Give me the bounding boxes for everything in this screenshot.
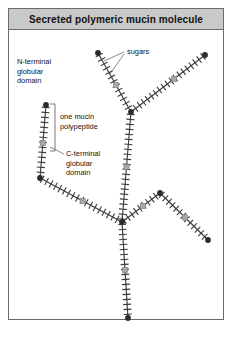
sugar-side-chain <box>45 178 49 185</box>
label-n-terminal-globular-domain-line: domain <box>17 76 41 85</box>
label-sugars-line: sugars <box>127 47 149 56</box>
sugar-side-chain <box>105 71 112 75</box>
c-terminal-globular-domain <box>122 267 127 272</box>
sugar-side-chain <box>93 204 97 211</box>
polypeptide-bracket <box>50 104 55 151</box>
sugar-side-chain <box>161 84 166 90</box>
sugar-side-chain <box>185 66 190 72</box>
sugar-side-chain <box>125 139 133 140</box>
c-terminal-globular-domain <box>113 82 118 87</box>
c-terminal-globular-domain <box>124 164 129 169</box>
sugar-side-chain <box>125 134 133 135</box>
mucin-diagram: N-terminalglobulardomainone mucinpolypep… <box>0 0 234 341</box>
sugar-side-chain <box>38 157 46 158</box>
mucin-polypeptide <box>36 105 49 178</box>
sugar-side-chain <box>102 209 106 216</box>
sugar-side-chain <box>123 159 131 160</box>
sugar-side-chain <box>36 172 44 173</box>
n-terminal-globular-domain <box>128 109 134 115</box>
c-terminal-globular-domain <box>140 203 145 208</box>
sugar-side-chain <box>118 93 125 97</box>
sugar-side-chain <box>120 97 127 101</box>
sugar-side-chain <box>38 152 46 153</box>
sugar-side-chain <box>122 174 130 175</box>
sugar-side-chain <box>41 117 49 118</box>
sugar-side-chain <box>76 195 80 202</box>
mucin-figure: Secreted polymeric mucin molecule N-term… <box>0 0 234 341</box>
sugar-side-chain <box>111 213 115 220</box>
sugar-side-chain <box>133 208 138 214</box>
sugar-side-chain <box>37 167 45 168</box>
n-terminal-globular-domain <box>205 237 211 243</box>
sugar-side-chain <box>121 184 129 185</box>
sugar-side-chain <box>103 66 110 70</box>
sugar-side-chain <box>123 101 130 105</box>
label-n-terminal-globular-domain-line: N-terminal <box>17 57 51 66</box>
sugar-side-chain <box>120 194 128 195</box>
sugar-side-chain <box>71 192 75 199</box>
mucin-polypeptide <box>40 176 122 223</box>
sugar-side-chain <box>124 144 132 145</box>
sugar-side-chain <box>54 183 58 190</box>
sugar-side-chain <box>98 206 102 213</box>
n-terminal-globular-domain <box>37 175 43 181</box>
sugar-side-chain <box>49 180 53 187</box>
label-one-mucin-polypeptide-line: one mucin <box>60 112 94 121</box>
sugar-side-chain <box>122 179 130 180</box>
c-terminal-globular-domain <box>80 198 85 203</box>
sugar-side-chain <box>126 124 134 125</box>
sugar-side-chain <box>189 63 194 69</box>
sugar-side-chain <box>145 199 150 205</box>
polypeptide-backbone <box>131 55 205 112</box>
n-terminal-globular-domain <box>95 50 101 56</box>
label-n-terminal-globular-domain: N-terminalglobulardomain <box>17 57 51 85</box>
sugar-side-chain <box>58 185 62 192</box>
leader-line <box>50 147 64 154</box>
leader-line <box>104 52 124 61</box>
n-terminal-globular-domain <box>43 102 49 108</box>
n-terminal-globular-domain <box>125 315 131 321</box>
sugar-side-chain <box>177 72 182 78</box>
c-terminal-globular-domain <box>171 76 176 81</box>
sugar-side-chain <box>115 88 122 92</box>
sugar-side-chain <box>106 211 110 218</box>
sugar-side-chain <box>137 102 142 108</box>
sugar-side-chain <box>197 56 202 62</box>
label-n-terminal-globular-domain-line: globular <box>17 67 44 76</box>
mucin-polypeptide <box>131 53 205 112</box>
sugar-side-chain <box>41 112 49 113</box>
n-terminal-globular-domain <box>119 219 125 225</box>
sugar-side-chain <box>37 162 45 163</box>
sugar-side-chain <box>157 87 162 93</box>
n-terminal-globular-domain <box>202 52 208 58</box>
sugar-side-chain <box>121 189 129 190</box>
label-sugars: sugars <box>127 47 149 56</box>
sugar-side-chain <box>119 209 127 210</box>
label-c-terminal-globular-domain-line: C-terminal <box>66 149 100 158</box>
label-c-terminal-globular-domain-line: domain <box>66 168 90 177</box>
sugar-side-chain <box>145 96 150 102</box>
sugar-side-chain <box>125 106 132 110</box>
sugar-side-chain <box>126 129 134 130</box>
sugar-side-chain <box>40 132 48 133</box>
sugar-side-chain <box>39 147 47 148</box>
sugar-side-chain <box>41 122 49 123</box>
sugar-side-chain <box>149 196 154 202</box>
sugar-side-chain <box>124 154 132 155</box>
sugar-side-chain <box>181 69 186 75</box>
mucin-polypeptide <box>118 112 135 222</box>
sugar-side-chain <box>89 202 93 209</box>
sugar-side-chain <box>67 190 71 197</box>
label-c-terminal-globular-domain: C-terminalglobulardomain <box>66 149 100 177</box>
sugar-side-chain <box>165 81 170 87</box>
sugar-side-chain <box>126 214 131 220</box>
sugar-side-chain <box>101 62 108 66</box>
label-c-terminal-globular-domain-line: globular <box>66 159 93 168</box>
sugar-side-chain <box>124 149 132 150</box>
sugar-side-chain <box>149 93 154 99</box>
sugar-side-chain <box>108 75 115 79</box>
c-terminal-globular-domain <box>182 215 187 220</box>
mucin-polypeptide <box>96 53 132 112</box>
c-terminal-globular-domain <box>40 140 45 145</box>
label-one-mucin-polypeptide: one mucinpolypeptide <box>60 112 98 131</box>
